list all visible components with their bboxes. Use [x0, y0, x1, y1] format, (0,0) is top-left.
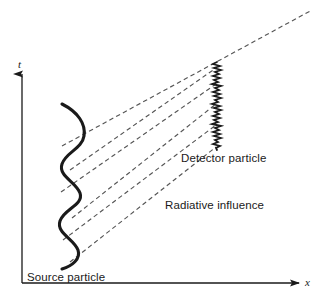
radiative-ray-6: [62, 10, 312, 146]
space-axis-label: x: [305, 276, 310, 288]
diagram-canvas: [0, 0, 320, 305]
radiative-influence-rays: [61, 10, 312, 262]
source-particle-label: Source particle: [27, 271, 105, 283]
source-particle-worldline: [59, 104, 84, 269]
spacetime-diagram-figure: Detector particle Radiative influence So…: [0, 0, 320, 305]
radiative-influence-label: Radiative influence: [165, 199, 264, 211]
detector-particle-label: Detector particle: [181, 152, 266, 164]
time-axis-label: t: [18, 58, 21, 70]
radiative-ray-2: [63, 125, 216, 240]
